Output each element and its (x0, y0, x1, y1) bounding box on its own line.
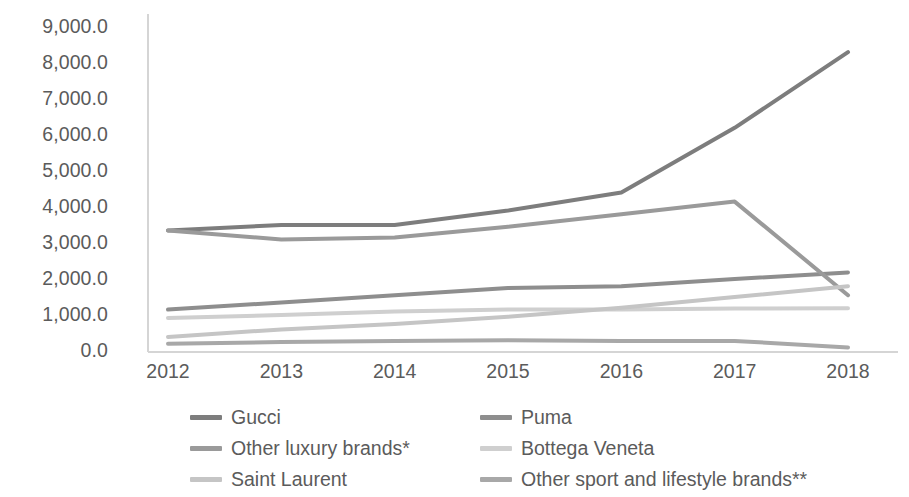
plot-svg (0, 0, 909, 398)
legend-label-saint-laurent: Saint Laurent (231, 469, 347, 490)
series-line-gucci (168, 52, 848, 230)
y-axis-tick-label: 4,000.0 (12, 197, 108, 217)
legend-label-bottega-veneta: Bottega Veneta (521, 438, 654, 459)
series-lines (168, 52, 848, 347)
x-axis-tick-label: 2017 (689, 362, 781, 382)
legend-item-puma[interactable]: Puma (480, 404, 572, 430)
y-axis-tick-label: 3,000.0 (12, 233, 108, 253)
y-axis-tick-label: 6,000.0 (12, 125, 108, 145)
x-axis-tick-label: 2015 (462, 362, 554, 382)
y-axis-tick-label: 7,000.0 (12, 89, 108, 109)
axis-lines (148, 14, 898, 352)
y-axis-tick-label: 8,000.0 (12, 53, 108, 73)
y-axis-tick-label: 5,000.0 (12, 161, 108, 181)
y-axis-tick-label: 0.0 (12, 341, 108, 361)
legend-label-gucci: Gucci (231, 407, 281, 428)
series-line-puma (168, 273, 848, 310)
legend-swatch-gucci (190, 415, 222, 420)
series-line-other-luxury-brands (168, 202, 848, 296)
legend-item-saint-laurent[interactable]: Saint Laurent (190, 466, 347, 492)
legend-label-other-sport-and-lifestyle-brands: Other sport and lifestyle brands** (521, 469, 807, 490)
chart-legend: GucciPumaOther luxury brands*Bottega Ven… (0, 398, 909, 497)
series-line-other-sport-and-lifestyle-brands (168, 340, 848, 347)
legend-label-puma: Puma (521, 407, 572, 428)
legend-item-gucci[interactable]: Gucci (190, 404, 281, 430)
legend-swatch-puma (480, 415, 512, 420)
legend-item-other-luxury-brands[interactable]: Other luxury brands* (190, 435, 410, 461)
x-axis-tick-label: 2013 (235, 362, 327, 382)
x-axis-tick-label: 2012 (122, 362, 214, 382)
plot-area: 0.01,000.02,000.03,000.04,000.05,000.06,… (0, 0, 909, 398)
legend-item-other-sport-and-lifestyle-brands[interactable]: Other sport and lifestyle brands** (480, 466, 807, 492)
legend-swatch-saint-laurent (190, 477, 222, 482)
legend-label-other-luxury-brands: Other luxury brands* (231, 438, 410, 459)
y-axis-tick-label: 2,000.0 (12, 269, 108, 289)
line-chart-figure: 0.01,000.02,000.03,000.04,000.05,000.06,… (0, 0, 909, 497)
y-axis-tick-label: 1,000.0 (12, 305, 108, 325)
x-axis-tick-label: 2018 (802, 362, 894, 382)
legend-swatch-bottega-veneta (480, 446, 512, 451)
legend-swatch-other-luxury-brands (190, 446, 222, 451)
x-axis-tick-label: 2014 (349, 362, 441, 382)
x-axis-tick-label: 2016 (575, 362, 667, 382)
legend-item-bottega-veneta[interactable]: Bottega Veneta (480, 435, 654, 461)
legend-swatch-other-sport-and-lifestyle-brands (480, 477, 512, 482)
y-axis-tick-label: 9,000.0 (12, 17, 108, 37)
